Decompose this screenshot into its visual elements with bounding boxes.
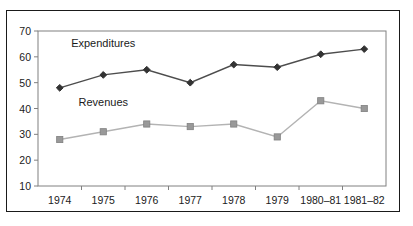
data-point-marker — [361, 105, 367, 111]
data-point-marker — [231, 121, 237, 127]
y-tick-label: 20 — [19, 154, 31, 166]
chart-outer-border: 10203040506070 1974197519761977197819791… — [6, 10, 400, 212]
line-chart: 10203040506070 1974197519761977197819791… — [7, 11, 399, 211]
data-point-marker — [57, 136, 63, 142]
y-axis-ticks — [34, 31, 38, 186]
series-annotation-revenues: Revenues — [78, 96, 128, 108]
data-point-marker — [318, 98, 324, 104]
x-tick-label: 1978 — [222, 194, 246, 206]
x-tick-label: 1981–82 — [344, 194, 385, 206]
x-tick-label: 1974 — [48, 194, 72, 206]
x-tick-label: 1975 — [92, 194, 116, 206]
x-tick-label: 1979 — [266, 194, 290, 206]
data-point-marker — [144, 121, 150, 127]
x-tick-label: 1977 — [179, 194, 203, 206]
data-point-marker — [100, 129, 106, 135]
y-tick-label: 70 — [19, 25, 31, 37]
plot-area-frame — [38, 31, 386, 186]
x-tick-label: 1980–81 — [300, 194, 341, 206]
y-axis-tick-labels: 10203040506070 — [19, 25, 31, 192]
x-axis-tick-labels: 1974197519761977197819791980–811981–82 — [48, 194, 385, 206]
y-tick-label: 60 — [19, 51, 31, 63]
x-axis: 1974197519761977197819791980–811981–82 — [48, 186, 385, 206]
data-point-marker — [187, 123, 193, 129]
chart-figure: 10203040506070 1974197519761977197819791… — [0, 0, 413, 226]
y-tick-label: 30 — [19, 128, 31, 140]
y-axis: 10203040506070 — [19, 25, 38, 192]
y-tick-label: 50 — [19, 77, 31, 89]
data-point-marker — [274, 134, 280, 140]
x-axis-ticks — [82, 186, 343, 190]
y-tick-label: 10 — [19, 180, 31, 192]
y-tick-label: 40 — [19, 103, 31, 115]
series-annotation-expenditures: Expenditures — [71, 37, 136, 49]
x-tick-label: 1976 — [135, 194, 159, 206]
